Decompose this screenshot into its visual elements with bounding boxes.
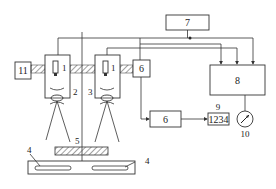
beam-right-a [95, 101, 107, 142]
camera-icon-right [103, 61, 108, 73]
block-11-label: 11 [18, 65, 28, 76]
label-4-left: 4 [27, 145, 32, 155]
gauge-icon-10 [237, 111, 253, 127]
camera-icon-left [53, 61, 58, 73]
block-6-top-label: 6 [139, 63, 144, 74]
display-9: 1234 [208, 113, 229, 125]
label-9: 9 [216, 102, 221, 112]
sensor-housing-right: 1 [95, 55, 120, 104]
label-1-left: 1 [62, 63, 67, 73]
label-3: 3 [88, 87, 93, 97]
block-7: 7 [166, 15, 209, 30]
block-6-bottom-label: 6 [163, 114, 168, 125]
block-6-bottom: 6 [150, 111, 181, 127]
slot-left [35, 166, 71, 170]
block-8: 8 [210, 65, 265, 95]
sensor-housing-left: 1 [45, 55, 70, 104]
label-5: 5 [75, 136, 80, 146]
label-2: 2 [73, 87, 78, 97]
block-7-label: 7 [185, 17, 190, 28]
beam-left-b [57, 101, 70, 142]
block-6-top: 6 [133, 60, 150, 77]
label-4-right: 4 [145, 156, 150, 166]
beam-right-b [107, 101, 119, 142]
rod-middle [70, 65, 95, 73]
label-10: 10 [241, 129, 251, 139]
rod-right [120, 65, 133, 73]
block-8-label: 8 [235, 75, 240, 86]
rod-left [31, 65, 45, 73]
beam-left-a [46, 101, 57, 140]
label-1-right: 1 [111, 63, 116, 73]
plate-5 [55, 147, 108, 155]
slot-right [92, 166, 128, 170]
measurement-system-diagram: 7 8 11 1 2 1 [0, 0, 276, 189]
display-9-value: 1234 [209, 114, 229, 125]
block-11: 11 [15, 62, 31, 79]
